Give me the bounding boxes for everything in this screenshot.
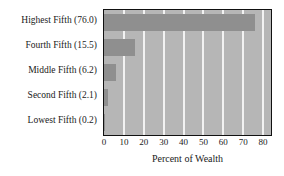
category-label: Highest Fifth (76.0) [0,15,97,26]
gridline-80 [262,10,264,135]
bar [104,114,105,131]
x-tick-80: 80 [259,137,268,147]
bar [104,64,116,81]
x-tick-60: 60 [219,137,228,147]
bar [104,14,255,31]
x-axis-tick-labels: 01020304050607080 [103,137,272,150]
category-label: Lowest Fifth (0.2) [0,115,97,126]
x-tick-70: 70 [239,137,248,147]
x-tick-30: 30 [159,137,168,147]
plot-area [103,9,272,136]
category-axis-labels: Lowest Fifth (0.2)Second Fifth (2.1)Midd… [0,8,100,136]
x-axis-title: Percent of Wealth [103,153,272,164]
bar [104,89,108,106]
category-label: Middle Fifth (6.2) [0,65,97,76]
wealth-distribution-bar-chart: Lowest Fifth (0.2)Second Fifth (2.1)Midd… [0,0,284,176]
x-tick-0: 0 [102,137,107,147]
category-label: Fourth Fifth (15.5) [0,40,97,51]
x-tick-10: 10 [119,137,128,147]
category-label: Second Fifth (2.1) [0,90,97,101]
x-tick-40: 40 [179,137,188,147]
x-tick-50: 50 [199,137,208,147]
x-tick-20: 20 [139,137,148,147]
bar [104,39,135,56]
